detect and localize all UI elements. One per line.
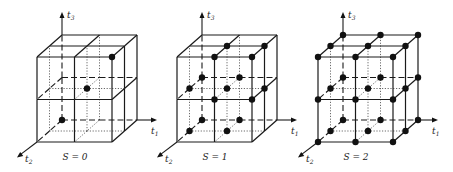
lattice-point-dot xyxy=(327,128,333,134)
solid-lattice-edge xyxy=(112,89,125,100)
t2-axis-label: t2 xyxy=(25,154,33,165)
lattice-point-dot xyxy=(315,54,321,60)
solid-lattice-edge xyxy=(50,35,63,46)
solid-lattice-edge xyxy=(125,78,138,89)
lattice-point-dot xyxy=(224,43,230,49)
lattice-point-dot xyxy=(59,117,65,123)
solid-lattice-edge xyxy=(37,46,50,57)
lattice-point-dot xyxy=(315,96,321,102)
lattice-point-dot xyxy=(390,96,396,102)
lattice-point-dot xyxy=(224,85,230,91)
lattice-point-dot xyxy=(211,96,217,102)
t3-arrow-icon xyxy=(341,12,346,18)
lattice-point-dot xyxy=(415,117,421,123)
lattice-point-dot xyxy=(249,96,255,102)
lattice-point-dot xyxy=(390,139,396,145)
dotted-lattice-edge xyxy=(75,131,88,142)
lattice-point-dot xyxy=(224,128,230,134)
lattice-point-dot xyxy=(236,74,242,80)
lattice-point-dot xyxy=(390,54,396,60)
lattice-point-dot xyxy=(84,85,90,91)
solid-lattice-edge xyxy=(177,46,190,57)
t1-axis-label: t1 xyxy=(151,126,158,137)
lattice-diagram-canvas: t3t1t2S = 0 t3t1t2S = 1 t3t1t2S = 2 xyxy=(0,0,453,172)
lattice-point-dot xyxy=(236,117,242,123)
dotted-lattice-edge xyxy=(87,120,100,131)
panel-s1: t3t1t2S = 1 xyxy=(157,10,298,165)
t1-arrow-icon xyxy=(151,118,157,123)
t3-axis-label: t3 xyxy=(207,10,215,21)
lattice-point-dot xyxy=(199,74,205,80)
lattice-point-dot xyxy=(186,85,192,91)
dashed-lattice-edge xyxy=(50,78,63,89)
lattice-point-dot xyxy=(186,128,192,134)
t3-arrow-icon xyxy=(60,12,65,18)
lattice-point-dot xyxy=(327,43,333,49)
t3-axis-label: t3 xyxy=(348,10,356,21)
dashed-lattice-edge xyxy=(37,89,50,100)
lattice-point-dot xyxy=(199,117,205,123)
solid-lattice-edge xyxy=(125,120,138,131)
lattice-point-dot xyxy=(340,74,346,80)
t3-arrow-icon xyxy=(200,12,205,18)
lattice-point-dot xyxy=(377,117,383,123)
t2-axis-label: t2 xyxy=(306,154,314,165)
lattice-point-dot xyxy=(415,74,421,80)
lattice-point-dot xyxy=(402,43,408,49)
solid-lattice-edge xyxy=(125,35,138,46)
lattice-point-dot xyxy=(402,128,408,134)
t1-axis-label: t1 xyxy=(291,126,298,137)
panel-caption: S = 1 xyxy=(202,152,227,162)
lattice-point-dot xyxy=(352,96,358,102)
lattice-point-dot xyxy=(377,74,383,80)
solid-lattice-edge xyxy=(265,120,278,131)
panel-s0: t3t1t2S = 0 xyxy=(17,10,158,165)
lattice-diagram-figure: t3t1t2S = 0 t3t1t2S = 1 t3t1t2S = 2 xyxy=(0,0,453,172)
solid-lattice-edge xyxy=(252,131,265,142)
t2-axis-label: t2 xyxy=(165,154,173,165)
solid-lattice-edge xyxy=(75,46,88,57)
lattice-point-dot xyxy=(261,85,267,91)
lattice-point-dot xyxy=(352,139,358,145)
dashed-lattice-edge xyxy=(37,131,50,142)
lattice-point-dot xyxy=(340,32,346,38)
panel-caption: S = 0 xyxy=(62,152,87,162)
t1-arrow-icon xyxy=(291,118,297,123)
solid-lattice-edge xyxy=(112,131,125,142)
lattice-point-dot xyxy=(261,43,267,49)
lattice-point-dot xyxy=(415,32,421,38)
lattice-point-dot xyxy=(327,85,333,91)
lattice-point-dot xyxy=(249,54,255,60)
lattice-point-dot xyxy=(315,139,321,145)
lattice-point-dot xyxy=(365,43,371,49)
lattice-point-dot xyxy=(211,54,217,60)
lattice-point-dot xyxy=(352,54,358,60)
t1-axis-label: t1 xyxy=(432,126,439,137)
t3-axis-label: t3 xyxy=(67,10,75,21)
solid-lattice-edge xyxy=(190,35,203,46)
lattice-point-dot xyxy=(365,85,371,91)
lattice-point-dot xyxy=(377,32,383,38)
lattice-point-dot xyxy=(365,128,371,134)
lattice-point-dot xyxy=(109,54,115,60)
t1-arrow-icon xyxy=(432,118,438,123)
panel-s2: t3t1t2S = 2 xyxy=(298,10,439,165)
solid-lattice-edge xyxy=(87,35,100,46)
panel-caption: S = 2 xyxy=(343,152,368,162)
lattice-point-dot xyxy=(402,85,408,91)
lattice-point-dot xyxy=(340,117,346,123)
